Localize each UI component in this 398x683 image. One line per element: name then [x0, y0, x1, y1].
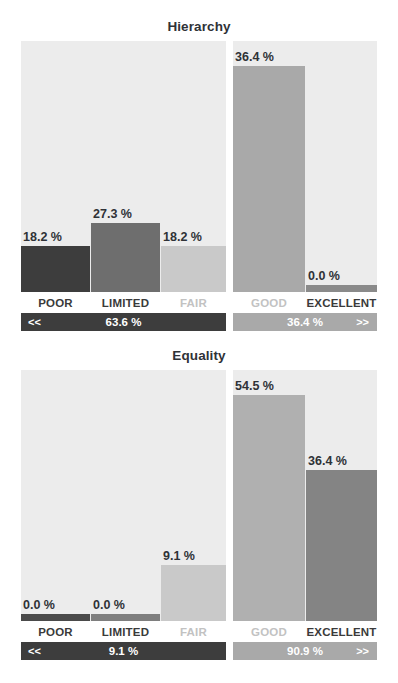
bar-column-excellent-equality[interactable]: 36.4 % [306, 370, 377, 621]
bar-column-good-hierarchy[interactable]: 36.4 % [233, 41, 305, 292]
bar-column-poor-hierarchy[interactable]: 18.2 % [21, 41, 90, 292]
summary-left-segment-hierarchy[interactable]: << 63.6 % [21, 313, 226, 331]
bar-column-limited-hierarchy[interactable]: 27.3 % [91, 41, 160, 292]
bar-value-limited-equality: 0.0 % [91, 598, 160, 612]
category-label-limited-hierarchy: LIMITED [91, 295, 160, 312]
bar-excellent-equality[interactable] [306, 470, 377, 621]
bar-good-equality[interactable] [233, 395, 305, 621]
bar-good-hierarchy[interactable] [233, 66, 305, 292]
summary-bar-hierarchy: << 63.6 % 36.4 % >> [21, 313, 377, 331]
bar-excellent-hierarchy[interactable] [306, 285, 377, 292]
next-arrow-icon-equality[interactable]: >> [356, 642, 369, 660]
category-label-good-equality: GOOD [233, 624, 305, 641]
bar-column-limited-equality[interactable]: 0.0 % [91, 370, 160, 621]
bar-value-good-equality: 54.5 % [233, 379, 305, 393]
summary-bar-equality: << 9.1 % 90.9 % >> [21, 642, 377, 660]
category-label-excellent-hierarchy: EXCELLENT [306, 295, 377, 312]
category-label-row-hierarchy: POOR LIMITED FAIR GOOD EXCELLENT [21, 295, 377, 312]
bar-value-fair-equality: 9.1 % [161, 549, 226, 563]
bar-limited-equality[interactable] [91, 614, 160, 621]
bar-column-excellent-hierarchy[interactable]: 0.0 % [306, 41, 377, 292]
plot-area-equality: 0.0 % 0.0 % 9.1 % 54.5 % 36.4 % [21, 370, 377, 621]
chart-panel-hierarchy: Hierarchy 18.2 % 27.3 % 18.2 % 36.4 % 0.… [0, 0, 398, 345]
category-label-fair-equality: FAIR [161, 624, 226, 641]
summary-left-percent-equality: 9.1 % [21, 642, 226, 660]
plot-area-hierarchy: 18.2 % 27.3 % 18.2 % 36.4 % 0.0 % [21, 41, 377, 292]
category-label-good-hierarchy: GOOD [233, 295, 305, 312]
category-label-row-equality: POOR LIMITED FAIR GOOD EXCELLENT [21, 624, 377, 641]
bar-column-fair-hierarchy[interactable]: 18.2 % [161, 41, 226, 292]
category-label-limited-equality: LIMITED [91, 624, 160, 641]
bar-column-good-equality[interactable]: 54.5 % [233, 370, 305, 621]
summary-right-segment-equality[interactable]: 90.9 % >> [233, 642, 377, 660]
bar-value-limited-hierarchy: 27.3 % [91, 207, 160, 221]
summary-right-segment-hierarchy[interactable]: 36.4 % >> [233, 313, 377, 331]
bar-column-poor-equality[interactable]: 0.0 % [21, 370, 90, 621]
next-arrow-icon-hierarchy[interactable]: >> [356, 313, 369, 331]
bar-poor-equality[interactable] [21, 614, 90, 621]
bar-fair-hierarchy[interactable] [161, 246, 226, 292]
panel-title-equality: Equality [0, 348, 398, 363]
bar-value-excellent-hierarchy: 0.0 % [306, 269, 377, 283]
bar-column-fair-equality[interactable]: 9.1 % [161, 370, 226, 621]
category-label-excellent-equality: EXCELLENT [306, 624, 377, 641]
chart-panel-equality: Equality 0.0 % 0.0 % 9.1 % 54.5 % 36.4 % [0, 345, 398, 683]
bar-poor-hierarchy[interactable] [21, 246, 90, 292]
bar-value-poor-hierarchy: 18.2 % [21, 230, 90, 244]
bar-value-excellent-equality: 36.4 % [306, 454, 377, 468]
bar-fair-equality[interactable] [161, 565, 226, 621]
bar-limited-hierarchy[interactable] [91, 223, 160, 292]
bar-value-fair-hierarchy: 18.2 % [161, 230, 226, 244]
category-label-poor-equality: POOR [21, 624, 90, 641]
category-label-fair-hierarchy: FAIR [161, 295, 226, 312]
panel-title-hierarchy: Hierarchy [0, 19, 398, 34]
summary-left-segment-equality[interactable]: << 9.1 % [21, 642, 226, 660]
bar-value-poor-equality: 0.0 % [21, 598, 90, 612]
category-label-poor-hierarchy: POOR [21, 295, 90, 312]
summary-left-percent-hierarchy: 63.6 % [21, 313, 226, 331]
bar-value-good-hierarchy: 36.4 % [233, 50, 305, 64]
